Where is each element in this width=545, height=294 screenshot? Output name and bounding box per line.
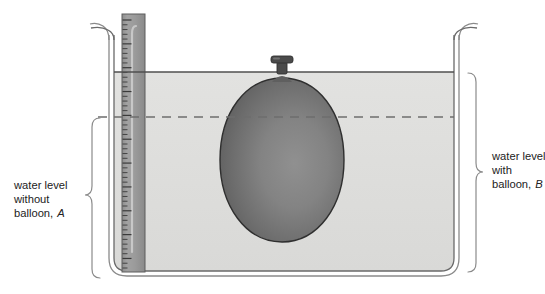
tank-rim-right-inner <box>454 27 477 40</box>
right-label-line1: water level <box>491 150 545 162</box>
tank-rim-left-outer <box>90 23 109 40</box>
left-label-line3-text: balloon, <box>14 207 53 219</box>
left-label-line2: without <box>13 193 50 205</box>
right-label-marker: B <box>535 178 543 190</box>
ruler-body <box>122 14 145 272</box>
nozzle-highlight <box>273 58 280 60</box>
right-annotation: water level with balloon,B <box>468 73 545 272</box>
diagram-canvas: water level without balloon,A water leve… <box>0 0 545 294</box>
right-label-line3-text: balloon, <box>492 178 531 190</box>
left-label-marker: A <box>56 207 64 219</box>
left-label-line1: water level <box>13 179 67 191</box>
left-annotation: water level without balloon,A <box>13 118 100 278</box>
curly-brace-icon-right <box>468 73 483 272</box>
right-label-line3: balloon,B <box>492 178 543 190</box>
left-label-line3: balloon,A <box>14 207 65 219</box>
curly-brace-icon-left <box>85 118 100 278</box>
balloon-body <box>220 78 344 242</box>
right-label-line2: with <box>491 164 512 176</box>
nozzle-stem <box>277 62 287 74</box>
tank-rim-left-inner <box>91 27 114 40</box>
ruler-icon <box>122 14 145 272</box>
tank-rim-right-outer <box>459 23 478 40</box>
physics-diagram-water-displacement: water level without balloon,A water leve… <box>0 0 545 294</box>
